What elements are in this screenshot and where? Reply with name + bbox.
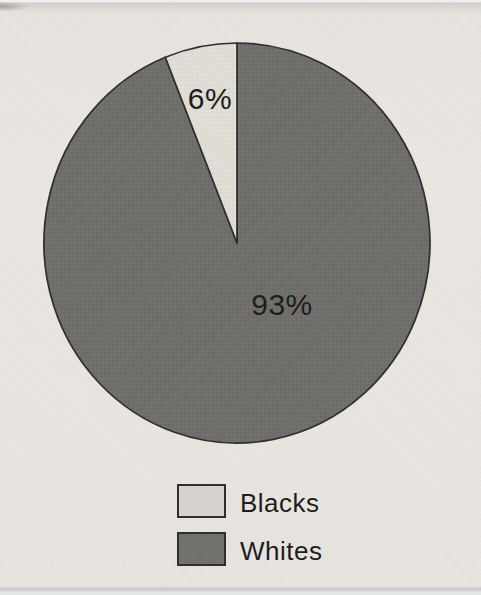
pie-halftone-overlay (44, 43, 430, 443)
pie-chart: 93%6% BlacksWhites (0, 0, 481, 595)
scanned-page: { "page": { "background_color": "#e8e5e0… (0, 0, 481, 595)
legend-label-blacks: Blacks (240, 488, 320, 518)
legend-swatch-whites (178, 533, 225, 565)
slice-label-whites: 93% (251, 288, 313, 321)
legend: BlacksWhites (178, 485, 322, 566)
slice-label-blacks: 6% (188, 82, 232, 115)
legend-label-whites: Whites (240, 536, 322, 566)
legend-swatch-blacks (178, 485, 225, 517)
pie-texture-group (44, 43, 430, 443)
